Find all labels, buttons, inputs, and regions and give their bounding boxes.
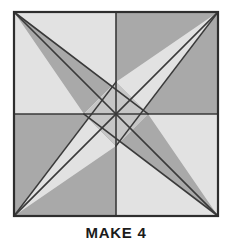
make-quantity-caption: MAKE 4 <box>0 224 232 241</box>
quilt-block-page: MAKE 4 <box>0 0 232 246</box>
quilt-block-figure <box>0 0 232 232</box>
quilt-block-canvas <box>0 0 232 232</box>
